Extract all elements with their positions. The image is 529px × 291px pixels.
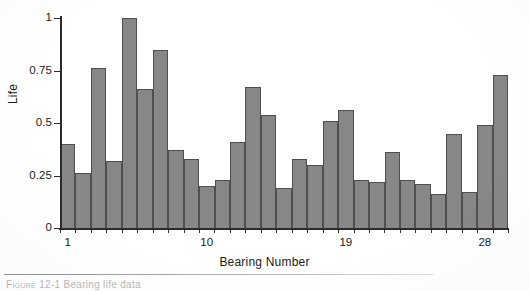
x-axis-tick: [462, 228, 463, 233]
figure-caption-body: Bearing life data: [63, 279, 140, 290]
bar: [184, 159, 199, 228]
x-axis-tick: [230, 228, 231, 233]
bar: [276, 188, 291, 228]
bar: [323, 121, 338, 228]
x-axis-tick: [431, 228, 432, 233]
x-axis-tick: [446, 228, 447, 233]
bar: [230, 142, 245, 228]
figure-caption-label: Figure 12-1: [6, 279, 60, 290]
y-axis-tick-label: 0.25: [0, 169, 52, 181]
bar: [415, 184, 430, 228]
bar: [369, 182, 384, 228]
x-axis-tick: [75, 228, 76, 233]
x-axis-tick: [153, 228, 154, 233]
bar: [400, 180, 415, 228]
x-axis-tick-label: 28: [478, 236, 491, 248]
y-axis-title: Life: [6, 84, 20, 104]
bar: [153, 50, 168, 229]
bar: [385, 152, 400, 228]
y-axis-tick-label: 1: [0, 11, 52, 23]
bar: [446, 134, 461, 229]
bar: [199, 186, 214, 228]
y-axis-tick: [54, 123, 61, 124]
x-axis-tick: [354, 228, 355, 233]
bar: [354, 180, 369, 228]
caption-divider: [4, 274, 434, 275]
bar: [477, 125, 492, 228]
x-axis-tick: [338, 228, 339, 233]
bar: [493, 75, 508, 228]
x-axis-tick: [292, 228, 293, 233]
x-axis-tick: [415, 228, 416, 233]
figure-container: 10.750.50.250 1101928 Life Bearing Numbe…: [0, 0, 529, 291]
x-axis-title: Bearing Number: [0, 255, 529, 269]
bar: [292, 159, 307, 228]
bar: [106, 161, 121, 228]
x-axis-tick: [400, 228, 401, 233]
x-axis-tick: [91, 228, 92, 233]
y-axis-tick-label: 0: [0, 221, 52, 233]
bar: [261, 115, 276, 228]
x-axis-tick: [384, 228, 385, 233]
x-axis-tick: [508, 228, 509, 233]
x-axis-tick: [60, 228, 61, 233]
x-axis-tick: [276, 228, 277, 233]
x-axis-tick: [493, 228, 494, 233]
y-axis-tick: [54, 176, 61, 177]
y-axis-tick: [54, 18, 61, 19]
x-axis-tick: [323, 228, 324, 233]
x-axis-tick: [199, 228, 200, 233]
x-axis-tick-label: 1: [65, 236, 71, 248]
y-axis-tick-label: 0.75: [0, 64, 52, 76]
bar-series: [60, 18, 508, 228]
bar: [338, 110, 353, 228]
bar: [122, 18, 137, 228]
plot-area: [60, 18, 508, 228]
x-axis-tick: [122, 228, 123, 233]
x-axis-tick: [214, 228, 215, 233]
figure-caption: Figure 12-1 Bearing life data: [6, 279, 141, 291]
x-axis-tick: [137, 228, 138, 233]
bar: [215, 180, 230, 228]
bar: [75, 173, 90, 228]
bar: [431, 194, 446, 228]
x-axis-tick-label: 10: [200, 236, 213, 248]
x-axis-tick: [168, 228, 169, 233]
x-axis-tick: [106, 228, 107, 233]
x-axis-line: [59, 228, 509, 230]
bar: [245, 87, 260, 228]
x-axis-tick: [477, 228, 478, 233]
bar: [91, 68, 106, 228]
x-axis-tick: [261, 228, 262, 233]
x-axis-tick: [245, 228, 246, 233]
x-axis-tick: [307, 228, 308, 233]
y-axis-tick-label: 0.5: [0, 116, 52, 128]
bar: [307, 165, 322, 228]
bar: [60, 144, 75, 228]
bar: [462, 192, 477, 228]
bar: [137, 89, 152, 228]
x-axis-tick: [184, 228, 185, 233]
bar: [168, 150, 183, 228]
x-axis-tick: [369, 228, 370, 233]
x-axis-tick-label: 19: [339, 236, 352, 248]
y-axis-tick: [54, 71, 61, 72]
